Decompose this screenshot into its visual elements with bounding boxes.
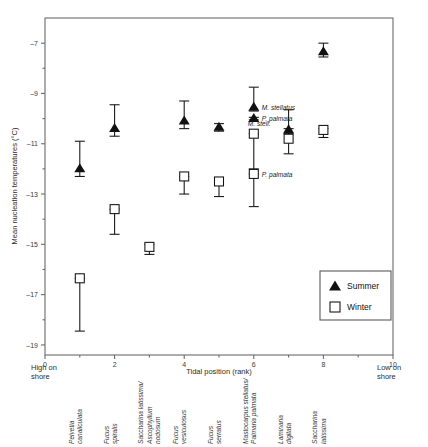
species-label: nodosum: [154, 416, 161, 444]
species-label: Ascophyllum: [146, 406, 154, 445]
y-tick-label: –13: [26, 191, 38, 198]
y-tick-label: –19: [26, 342, 38, 349]
species-label: Saccharina: [311, 411, 318, 444]
nucleation-temperature-scatter-chart: –7–9–11–13–15–17–19 0246810 M. stellatus…: [0, 0, 428, 447]
y-tick-label: –7: [30, 40, 38, 47]
low-shore-label-line1: Low on: [377, 363, 401, 372]
x-tick-label: 6: [252, 361, 256, 368]
legend-box: [320, 271, 391, 320]
winter-square-marker: [110, 205, 119, 214]
species-label: Pelvetia: [68, 420, 75, 444]
x-tick-label: 8: [321, 361, 325, 368]
winter-square-marker: [249, 129, 258, 138]
species-label: Palmaria palmata: [250, 392, 258, 444]
species-label: Fucus: [207, 425, 214, 444]
species-label: latissima: [320, 418, 327, 444]
point-annotation-label: M. stellatus: [262, 104, 296, 111]
species-label: Laminaria: [277, 415, 284, 444]
winter-square-marker: [215, 177, 224, 186]
figure-container: –7–9–11–13–15–17–19 0246810 M. stellatus…: [0, 0, 428, 447]
species-label: canaliculata: [76, 409, 83, 444]
species-label: Fucus: [103, 425, 110, 444]
y-axis: –7–9–11–13–15–17–19: [26, 40, 45, 349]
winter-square-marker: [145, 242, 154, 251]
high-shore-label-line1: High on: [31, 363, 57, 372]
winter-square-marker: [284, 134, 293, 143]
winter-square-marker: [249, 169, 258, 178]
species-label: Fucus: [172, 425, 179, 444]
species-label: Mastocarpus stellatus/: [242, 377, 250, 444]
legend-label: Summer: [347, 281, 379, 291]
y-tick-label: –11: [27, 140, 38, 147]
legend-label: Winter: [347, 302, 372, 312]
legend-winter-square-icon: [330, 302, 340, 312]
winter-square-marker: [319, 125, 328, 134]
high-shore-label-line2: shore: [31, 372, 50, 381]
y-tick-label: –15: [26, 241, 38, 248]
species-label: serratus: [215, 419, 222, 444]
species-label: digitata: [285, 422, 293, 444]
species-label: spiralis: [111, 423, 119, 444]
x-axis-title: Tidal position (rank): [186, 367, 252, 376]
category-labels: PelvetiacanaliculataFucusspiralisSacchar…: [68, 377, 327, 445]
species-label: vesiculosus: [180, 409, 187, 444]
point-annotation-label: M. stell.: [248, 120, 271, 127]
y-axis-title: Mean nucleation temperatures (°C): [10, 127, 19, 244]
winter-square-marker: [75, 274, 84, 283]
low-shore-label-line2: shore: [377, 372, 396, 381]
winter-square-marker: [180, 172, 189, 181]
x-tick-label: 2: [113, 361, 117, 368]
y-tick-label: –17: [26, 291, 38, 298]
point-annotation-label: P. palmata: [262, 171, 293, 179]
chart-legend: SummerWinter: [320, 271, 391, 320]
species-label: Saccharina latissima/: [137, 381, 144, 444]
y-tick-label: –9: [30, 90, 38, 97]
